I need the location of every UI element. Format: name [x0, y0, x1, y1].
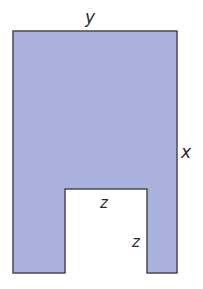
- notched-rectangle-shape: [13, 31, 177, 273]
- label-y-top-width: y: [84, 7, 96, 27]
- label-z-notch-width: z: [99, 194, 109, 212]
- label-x-height: x: [180, 142, 192, 162]
- label-z-notch-height: z: [131, 233, 141, 251]
- diagram-canvas: y x z z: [0, 0, 203, 289]
